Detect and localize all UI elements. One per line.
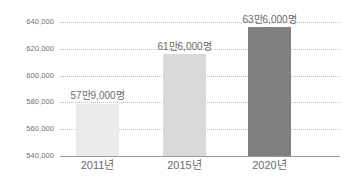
value-label-2015: 61만6,000명 — [130, 42, 240, 52]
bar-2015 — [163, 54, 206, 156]
bar-2011 — [76, 104, 119, 156]
y-tick-label: 600,000 — [6, 72, 54, 80]
y-tick-label: 540,000 — [6, 152, 54, 160]
y-tick-label: 620,000 — [6, 45, 54, 53]
bar-2020 — [248, 27, 291, 156]
y-tick-label: 640,000 — [6, 18, 54, 26]
value-label-2020: 63만6,000명 — [215, 15, 325, 25]
axis-baseline-540000 — [60, 156, 340, 157]
value-label-2011: 57만9,000명 — [43, 91, 153, 101]
x-label-2020: 2020년 — [215, 160, 325, 171]
bar-chart: 640,000 620,000 600,000 580,000 560,000 … — [0, 0, 358, 178]
y-tick-label: 560,000 — [6, 125, 54, 133]
